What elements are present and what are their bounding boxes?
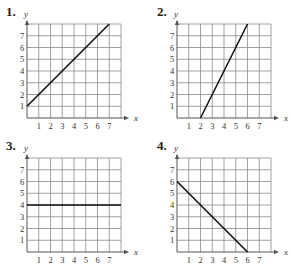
y-axis-label: y <box>173 143 178 153</box>
x-tick-label: 3 <box>210 255 214 265</box>
x-tick-label: 4 <box>72 255 77 265</box>
y-tick-label: 2 <box>20 224 24 234</box>
y-tick-label: 2 <box>20 90 24 100</box>
x-tick-label: 1 <box>187 121 191 131</box>
y-tick-label: 1 <box>170 235 174 245</box>
graph-panel-1: 1.yx12345671234567 <box>0 0 145 135</box>
x-arrow-icon <box>124 250 129 254</box>
y-tick-label: 3 <box>20 78 24 88</box>
x-axis-label: x <box>133 247 138 257</box>
x-tick-label: 5 <box>84 121 88 131</box>
y-tick-label: 6 <box>20 177 24 187</box>
y-tick-label: 6 <box>170 43 174 53</box>
x-tick-label: 2 <box>198 121 202 131</box>
y-tick-label: 4 <box>20 66 25 76</box>
y-tick-label: 4 <box>20 200 25 210</box>
x-tick-label: 3 <box>60 255 64 265</box>
y-arrow-icon <box>175 20 179 25</box>
x-tick-label: 5 <box>234 255 238 265</box>
y-arrow-icon <box>175 154 179 159</box>
y-tick-label: 5 <box>20 188 24 198</box>
y-tick-label: 2 <box>170 90 174 100</box>
x-axis-label: x <box>133 113 138 123</box>
x-arrow-icon <box>274 250 279 254</box>
x-tick-label: 1 <box>37 255 41 265</box>
x-tick-label: 4 <box>222 121 227 131</box>
x-tick-label: 7 <box>257 255 261 265</box>
y-tick-label: 7 <box>170 31 174 41</box>
x-arrow-icon <box>124 116 129 120</box>
y-tick-label: 5 <box>170 54 174 64</box>
x-tick-label: 1 <box>37 121 41 131</box>
y-tick-label: 4 <box>170 200 175 210</box>
graph-panel-3: 3.yx12345671234567 <box>0 134 145 269</box>
y-tick-label: 7 <box>20 165 24 175</box>
grid <box>27 24 121 118</box>
graph-panel-2: 2.yx12345671234567 <box>150 0 291 135</box>
x-tick-label: 5 <box>234 121 238 131</box>
y-tick-label: 7 <box>20 31 24 41</box>
y-tick-label: 1 <box>20 101 24 111</box>
y-tick-label: 7 <box>170 165 174 175</box>
y-tick-label: 4 <box>170 66 175 76</box>
x-tick-label: 6 <box>245 255 249 265</box>
x-tick-label: 1 <box>187 255 191 265</box>
x-tick-label: 4 <box>72 121 77 131</box>
axes <box>175 20 279 120</box>
x-axis-label: x <box>283 113 288 123</box>
x-tick-label: 2 <box>48 255 52 265</box>
x-tick-label: 5 <box>84 255 88 265</box>
y-axis-label: y <box>23 143 28 153</box>
x-arrow-icon <box>274 116 279 120</box>
y-tick-label: 5 <box>20 54 24 64</box>
y-tick-label: 6 <box>20 43 24 53</box>
graph-line <box>27 24 109 106</box>
x-tick-label: 4 <box>222 255 227 265</box>
coordinate-plane: yx12345671234567 <box>150 0 291 135</box>
y-tick-label: 3 <box>170 78 174 88</box>
x-tick-label: 6 <box>95 255 99 265</box>
grid <box>177 158 271 252</box>
coordinate-plane: yx12345671234567 <box>0 0 145 135</box>
axes <box>25 154 129 254</box>
y-tick-label: 3 <box>20 212 24 222</box>
x-tick-label: 2 <box>48 121 52 131</box>
x-tick-label: 2 <box>198 255 202 265</box>
y-arrow-icon <box>25 154 29 159</box>
graph-panel-4: 4.yx12345671234567 <box>150 134 291 269</box>
x-tick-label: 6 <box>245 121 249 131</box>
x-tick-label: 3 <box>60 121 64 131</box>
y-tick-label: 2 <box>170 224 174 234</box>
y-tick-label: 6 <box>170 177 174 187</box>
x-tick-label: 7 <box>257 121 261 131</box>
x-tick-label: 7 <box>107 121 111 131</box>
x-tick-label: 6 <box>95 121 99 131</box>
x-axis-label: x <box>283 247 288 257</box>
y-axis-label: y <box>173 9 178 19</box>
coordinate-plane: yx12345671234567 <box>150 134 291 269</box>
x-tick-label: 7 <box>107 255 111 265</box>
coordinate-plane: yx12345671234567 <box>0 134 145 269</box>
axes <box>175 154 279 254</box>
y-arrow-icon <box>25 20 29 25</box>
y-axis-label: y <box>23 9 28 19</box>
y-tick-label: 3 <box>170 212 174 222</box>
axes <box>25 20 129 120</box>
y-tick-label: 1 <box>20 235 24 245</box>
x-tick-label: 3 <box>210 121 214 131</box>
y-tick-label: 1 <box>170 101 174 111</box>
y-tick-label: 5 <box>170 188 174 198</box>
